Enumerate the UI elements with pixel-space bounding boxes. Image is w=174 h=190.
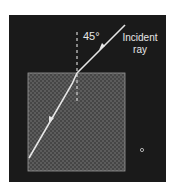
incident-ray-label: Incident ray (121, 32, 159, 56)
diagram-canvas (0, 0, 174, 190)
incident-label-line2: ray (121, 44, 159, 56)
incident-label-line1: Incident (121, 32, 159, 44)
angle-label: 45° (83, 31, 100, 41)
